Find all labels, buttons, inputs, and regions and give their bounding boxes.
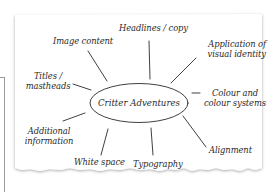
node-alignment: Alignment [209, 145, 252, 155]
node-additional-information: Additional information [24, 126, 74, 146]
center-node-label: Critter Adventures [90, 98, 188, 108]
node-colour-line2: colour systems [204, 98, 266, 108]
node-titles-line1: Titles / [22, 71, 74, 81]
node-colour-line1: Colour and [204, 88, 266, 98]
node-headlines: Headlines / copy [119, 23, 188, 33]
node-white-space: White space [74, 157, 125, 167]
node-application-line2: visual identity [198, 49, 266, 59]
node-application-line1: Application of [198, 39, 266, 49]
node-additional-line1: Additional [24, 126, 74, 136]
node-titles-line2: mastheads [22, 81, 74, 91]
node-colour-systems: Colour and colour systems [204, 88, 266, 108]
node-typography: Typography [133, 159, 183, 169]
node-additional-line2: information [24, 136, 74, 146]
node-titles-mastheads: Titles / mastheads [22, 71, 74, 91]
node-image-content: Image content [53, 36, 113, 46]
node-application-visual-identity: Application of visual identity [198, 39, 266, 59]
